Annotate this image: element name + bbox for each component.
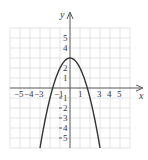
x-axis-label: x [138, 90, 144, 101]
y-tick: 2 [63, 103, 68, 113]
x-tick: 4 [107, 89, 112, 99]
y-tick: 5 [63, 33, 68, 43]
y-tick: 3 [63, 113, 68, 123]
y-tick: 1 [63, 73, 68, 83]
parabola-chart: x y −5 −4 −3 −1 1 3 4 5 5 4 2 1 1 2 3 4 … [0, 0, 148, 160]
y-tick: 5 [63, 133, 68, 143]
x-tick: −5 [14, 89, 24, 99]
x-tick: −3 [34, 89, 44, 99]
y-axis-label: y [59, 9, 65, 20]
x-tick: 3 [97, 89, 102, 99]
y-tick: 2 [63, 63, 68, 73]
x-tick: 1 [78, 89, 83, 99]
y-tick: 1 [63, 93, 68, 103]
x-tick: 5 [117, 89, 122, 99]
x-tick: −4 [24, 89, 34, 99]
y-tick: 4 [63, 43, 68, 53]
x-tick-labels: −5 −4 −3 −1 1 3 4 5 [14, 89, 122, 99]
y-tick: 4 [63, 123, 68, 133]
